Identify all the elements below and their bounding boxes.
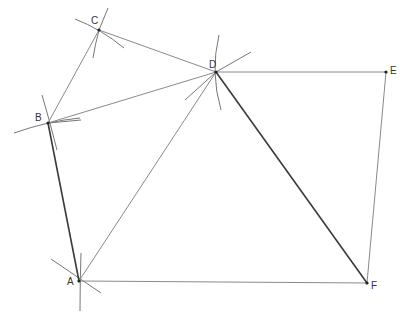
- point-e: [384, 70, 387, 73]
- geometry-construction-diagram: ABCDEF: [0, 0, 402, 319]
- construction-arc-d: [216, 52, 251, 72]
- segment-df: [216, 72, 367, 283]
- vertex-points: [46, 28, 387, 284]
- point-label-e: E: [390, 65, 397, 76]
- point-d: [214, 70, 217, 73]
- segment-bc: [48, 30, 99, 123]
- point-a: [77, 279, 80, 282]
- point-label-a: A: [67, 276, 74, 287]
- segment-ab: [48, 123, 79, 281]
- segment-cd: [99, 30, 216, 72]
- segment-af: [79, 281, 367, 283]
- construction-arcs: [14, 8, 251, 311]
- point-label-f: F: [371, 280, 377, 291]
- polygon-segments: [48, 30, 386, 283]
- point-label-c: C: [91, 15, 98, 26]
- point-c: [97, 28, 100, 31]
- segment-ad: [79, 72, 216, 281]
- point-label-d: D: [209, 59, 216, 70]
- segment-bd: [48, 72, 216, 123]
- construction-arc-c: [99, 8, 108, 30]
- point-b: [46, 121, 49, 124]
- segment-ef: [367, 72, 386, 283]
- point-label-b: B: [35, 112, 42, 123]
- construction-arc-c: [93, 30, 99, 58]
- point-f: [365, 281, 368, 284]
- construction-arc-c: [75, 19, 124, 48]
- construction-arc-b: [14, 118, 80, 133]
